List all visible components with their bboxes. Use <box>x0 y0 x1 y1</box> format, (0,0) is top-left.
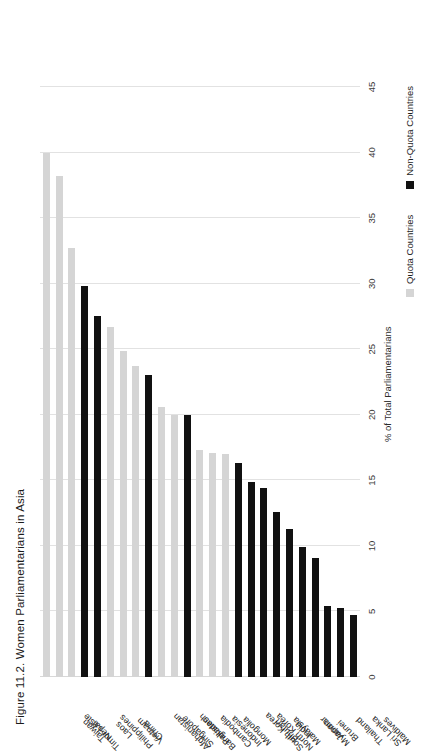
square-swatch-quota-icon <box>406 289 414 297</box>
tick-label-20: 20 <box>366 409 377 420</box>
bar-laos <box>94 316 101 677</box>
bar-thailand <box>324 606 331 677</box>
bar-south-korea <box>222 454 229 677</box>
value-axis-title: % of Total Parliamentarians <box>382 327 393 442</box>
plot-inner <box>40 87 360 677</box>
tick-label-45: 45 <box>366 82 377 93</box>
bar-nepal <box>68 248 75 677</box>
bar-row <box>232 87 245 677</box>
bar-row <box>194 87 207 677</box>
bar-india <box>273 512 280 677</box>
tick-label-30: 30 <box>366 278 377 289</box>
bar-row <box>283 87 296 677</box>
tick-label-25: 25 <box>366 344 377 355</box>
chart-legend: Quota CountriesNon-Quota Countries <box>404 86 415 297</box>
bar-row <box>168 87 181 677</box>
bar-row <box>117 87 130 677</box>
bar-row <box>347 87 360 677</box>
bar-philippines <box>81 286 88 677</box>
bar-brunei <box>312 558 319 677</box>
bar-row <box>245 87 258 677</box>
bar-indonesia <box>196 450 203 677</box>
tick-label-35: 35 <box>366 213 377 224</box>
legend-label: Non-Quota Countries <box>404 86 415 176</box>
bar-row <box>296 87 309 677</box>
bar-mongolia <box>209 453 216 677</box>
bar-afghanistan <box>132 366 139 677</box>
tick-label-15: 15 <box>366 475 377 486</box>
bar-row <box>270 87 283 677</box>
legend-label: Quota Countries <box>404 215 415 284</box>
bar-row <box>66 87 79 677</box>
bar-sri-lanka <box>337 608 344 677</box>
square-swatch-nonquota-icon <box>406 181 414 189</box>
bar-vietnam <box>107 327 114 677</box>
bar-taiwan <box>56 176 63 677</box>
bar-north-korea <box>235 463 242 677</box>
bar-row <box>53 87 66 677</box>
bar-maldives <box>350 615 357 677</box>
bar-row <box>130 87 143 677</box>
bar-row <box>155 87 168 677</box>
bar-row <box>334 87 347 677</box>
bar-row <box>78 87 91 677</box>
bar-row <box>91 87 104 677</box>
bar-bhutan <box>248 482 255 677</box>
bar-row <box>258 87 271 677</box>
tick-label-40: 40 <box>366 147 377 158</box>
bar-row <box>181 87 194 677</box>
bar-cambodia <box>184 415 191 677</box>
bar-myanmar <box>286 529 293 677</box>
bar-pakistan <box>171 415 178 677</box>
legend-item-non-quota-countries[interactable]: Non-Quota Countries <box>404 86 415 189</box>
tick-label-5: 5 <box>366 609 377 614</box>
bar-row <box>219 87 232 677</box>
legend-item-quota-countries[interactable]: Quota Countries <box>404 215 415 297</box>
bar-timor-leste <box>43 153 50 677</box>
bar-row <box>104 87 117 677</box>
figure-title: Figure 11.2. Women Parliamentarians in A… <box>14 489 26 725</box>
bar-row <box>309 87 322 677</box>
bar-row <box>40 87 53 677</box>
tick-label-10: 10 <box>366 541 377 552</box>
bar-bangladesh <box>158 407 165 677</box>
bar-china <box>120 351 127 677</box>
bar-row <box>142 87 155 677</box>
plot-area <box>40 87 360 677</box>
bar-row <box>206 87 219 677</box>
bar-japan <box>299 547 306 677</box>
bar-singapore <box>145 375 152 677</box>
bar-malaysia <box>260 488 267 677</box>
bar-row <box>322 87 335 677</box>
tick-label-0: 0 <box>366 674 377 679</box>
